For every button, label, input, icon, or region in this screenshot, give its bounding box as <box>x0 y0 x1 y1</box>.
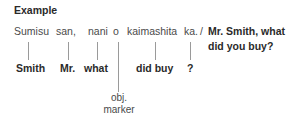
jp-word-ka: ka. <box>184 25 198 37</box>
gloss-did-buy: did buy <box>136 62 173 74</box>
note-line-1: obj. <box>101 92 137 104</box>
gloss-what: what <box>84 62 108 74</box>
example-heading: Example <box>14 4 57 16</box>
connector-line-ka <box>190 42 191 60</box>
connector-line-nani <box>97 42 98 60</box>
note-line-2: marker <box>101 104 137 116</box>
gloss-mr: Mr. <box>60 62 75 74</box>
connector-line-kaimashita <box>155 42 156 60</box>
connector-line-sumisu <box>28 42 29 60</box>
translation-line-1: Mr. Smith, what <box>208 24 285 39</box>
connector-line-san <box>68 42 69 60</box>
jp-word-nani: nani <box>88 25 108 37</box>
jp-word-kaimashita: kaimashita <box>127 25 177 37</box>
separator-slash: / <box>200 25 203 37</box>
jp-word-o: o <box>113 25 119 37</box>
gloss-smith: Smith <box>16 62 45 74</box>
jp-word-sumisu: Sumisu <box>14 25 49 37</box>
translation-line-2: did you buy? <box>208 39 285 54</box>
gloss-question: ? <box>187 62 193 74</box>
object-marker-note: obj. marker <box>101 92 137 116</box>
jp-word-san: san, <box>56 25 76 37</box>
connector-line-o <box>118 42 119 92</box>
english-translation: Mr. Smith, what did you buy? <box>208 24 285 54</box>
